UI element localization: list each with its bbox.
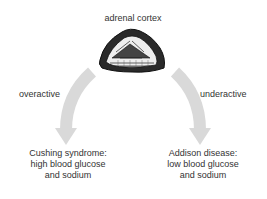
cushing-line-1: Cushing syndrome: [20,148,116,159]
underactive-label: underactive [200,89,247,100]
diagram-title: adrenal cortex [93,13,173,24]
adrenal-gland-illustration [99,29,164,72]
addison-outcome: Addison disease: low blood glucose and s… [155,148,251,181]
left-arrow [55,72,92,145]
addison-line-1: Addison disease: [155,148,251,159]
cushing-outcome: Cushing syndrome: high blood glucose and… [20,148,116,181]
addison-line-2: low blood glucose [155,159,251,170]
cushing-line-2: high blood glucose [20,159,116,170]
right-arrow [175,72,211,145]
cushing-line-3: and sodium [20,170,116,181]
addison-line-3: and sodium [155,170,251,181]
overactive-label: overactive [19,89,60,100]
